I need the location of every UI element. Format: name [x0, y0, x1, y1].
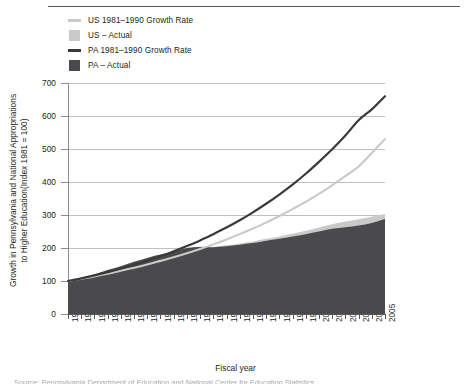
y-axis-title: Growth in Pennsylvania and National Appr…: [8, 55, 29, 326]
x-axis-title: Fiscal year: [0, 363, 471, 373]
area-series: [68, 219, 385, 314]
plot-area: [0, 0, 471, 384]
figure: US 1981–1990 Growth Rate US – Actual PA …: [0, 0, 471, 384]
figure-caption-cutoff: Source: Pennsylvania Department of Educa…: [14, 378, 454, 384]
